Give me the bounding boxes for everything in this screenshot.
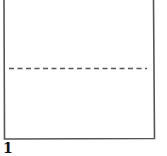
- step-number-label: 1: [3, 140, 13, 156]
- paper-outline: [4, 0, 155, 139]
- folding-diagram: [0, 0, 167, 156]
